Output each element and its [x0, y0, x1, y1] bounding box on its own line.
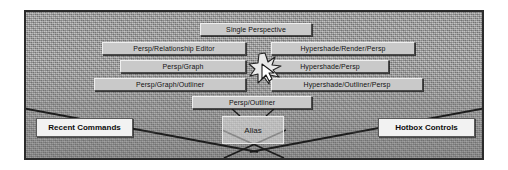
hotbox-item-hypershade-outliner-persp[interactable]: Hypershade/Outliner/Persp	[271, 78, 423, 91]
hotbox-item-persp-relationship-editor[interactable]: Persp/Relationship Editor	[102, 42, 246, 55]
hotbox-item-persp-graph-outliner[interactable]: Persp/Graph/Outliner	[94, 78, 246, 91]
center-logo-alias: Alias	[222, 116, 284, 144]
hotbox-item-persp-outliner[interactable]: Persp/Outliner	[192, 96, 312, 109]
hotbox-item-persp-graph[interactable]: Persp/Graph	[120, 60, 246, 73]
zone-recent-commands[interactable]: Recent Commands	[36, 118, 133, 137]
hotbox-item-hypershade-render-persp[interactable]: Hypershade/Render/Persp	[271, 42, 415, 55]
hotbox-item-hypershade-persp[interactable]: Hypershade/Persp	[271, 60, 389, 73]
zone-hotbox-controls[interactable]: Hotbox Controls	[378, 118, 475, 137]
hotbox-item-single-perspective[interactable]: Single Perspective	[200, 23, 312, 36]
hotbox-scene: Single Perspective Persp/Relationship Ed…	[24, 10, 484, 160]
sparkle-burst-icon	[248, 52, 282, 86]
